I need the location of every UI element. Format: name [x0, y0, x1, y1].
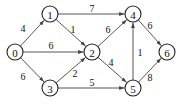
edge-2-4 [98, 20, 127, 47]
node-label: 3 [47, 83, 53, 95]
edge-weight-label: 7 [90, 3, 95, 14]
edge-weight-label: 8 [148, 72, 153, 83]
node-label: 0 [12, 47, 18, 59]
node-3: 3 [42, 80, 58, 96]
node-0: 0 [7, 44, 23, 60]
node-2: 2 [84, 44, 100, 60]
node-5: 5 [125, 80, 141, 96]
node-4: 4 [125, 6, 141, 22]
edge-weight-label: 4 [109, 57, 114, 68]
arrow-icon [98, 20, 127, 47]
node-6: 6 [159, 44, 175, 60]
edge-weight-label: 1 [138, 47, 143, 58]
node-label: 5 [130, 83, 136, 95]
arrow-icon [56, 58, 85, 83]
edge-3-2 [56, 58, 85, 83]
edge-weight-label: 6 [148, 20, 153, 31]
node-label: 1 [47, 9, 53, 21]
edge-weight-label: 1 [71, 24, 76, 35]
node-1: 1 [42, 6, 58, 22]
graph-diagram: 466712564168 0123456 [0, 0, 179, 105]
edge-weight-label: 6 [49, 40, 54, 51]
edge-weight-label: 6 [21, 71, 26, 82]
node-label: 6 [164, 47, 170, 59]
node-label: 4 [130, 9, 136, 21]
edge-weight-label: 4 [21, 23, 26, 34]
edge-weight-label: 5 [90, 77, 95, 88]
edge-weight-label: 6 [106, 24, 111, 35]
node-label: 2 [89, 47, 95, 59]
edge-weight-label: 2 [73, 68, 78, 79]
